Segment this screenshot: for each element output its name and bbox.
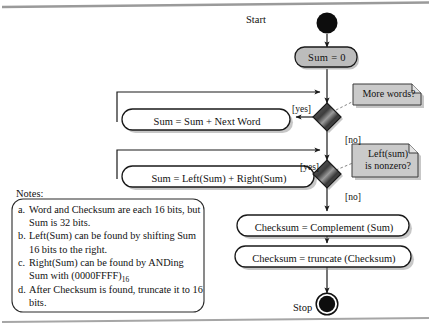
decision-more-words — [313, 103, 343, 133]
notes-item-c-subscript: 16 — [122, 275, 129, 284]
edge-label-yes-2: [yes] — [300, 163, 319, 173]
callout-left-nonzero-line1: Left(sum) — [355, 148, 421, 160]
node-fold-label[interactable]: Sum = Left(Sum) + Right(Sum) — [123, 170, 315, 188]
notes-item-b-letter: b. — [18, 229, 29, 255]
flowchart-page: Start Stop Sum = 0 Sum = Sum + Next Word… — [0, 0, 431, 331]
notes-item-a-text: Word and Checksum are each 16 bits, but … — [29, 203, 204, 229]
notes-item-d-text: After Checksum is found, truncate it to … — [29, 283, 204, 309]
edge-label-no-2: [no] — [345, 193, 361, 203]
edge-label-yes-1: [yes] — [292, 105, 311, 115]
notes-item-b-text: Left(Sum) can be found by shifting Sum 1… — [29, 229, 204, 255]
node-add-word-label[interactable]: Sum = Sum + Next Word — [123, 113, 291, 131]
notes-item-a-line1: Word and Checksum are each — [29, 204, 152, 215]
notes-item-d-line1: After Checksum is found, truncate — [29, 284, 171, 295]
edge-label-no-1: [no] — [345, 136, 361, 146]
start-label: Start — [246, 15, 266, 26]
notes-item-b: b. Left(Sum) can be found by shifting Su… — [18, 229, 204, 255]
notes-item-c: c. Right(Sum) can be found by ANDing Sum… — [18, 256, 204, 283]
page-rule-top — [2, 3, 429, 8]
node-init-label[interactable]: Sum = 0 — [296, 50, 358, 67]
stop-node — [316, 293, 338, 315]
notes-item-d-letter: d. — [18, 283, 29, 309]
stop-label: Stop — [293, 303, 312, 314]
notes-item-a-letter: a. — [18, 203, 29, 229]
callout-left-nonzero-text: Left(sum) is nonzero? — [355, 148, 421, 172]
callout-more-words-text: More words? — [356, 88, 422, 100]
start-node — [317, 13, 338, 34]
notes-list: a. Word and Checksum are each 16 bits, b… — [18, 203, 204, 310]
page-rule-bottom — [2, 318, 429, 322]
notes-item-c-text: Right(Sum) can be found by ANDing Sum wi… — [29, 256, 204, 283]
notes-item-d: d. After Checksum is found, truncate it … — [18, 283, 204, 309]
notes-item-c-line1: Right(Sum) can be found by — [29, 257, 146, 268]
notes-item-b-line1: Left(Sum) can be found by shifting — [29, 230, 175, 241]
notes-label: Notes: — [16, 189, 43, 200]
node-truncate-label[interactable]: Checksum = truncate (Checksum) — [236, 250, 412, 268]
notes-item-a: a. Word and Checksum are each 16 bits, b… — [18, 203, 204, 229]
node-complement-label[interactable]: Checksum = Complement (Sum) — [238, 219, 410, 237]
callout-left-nonzero-line2: is nonzero? — [355, 160, 421, 172]
notes-item-c-letter: c. — [18, 256, 29, 283]
